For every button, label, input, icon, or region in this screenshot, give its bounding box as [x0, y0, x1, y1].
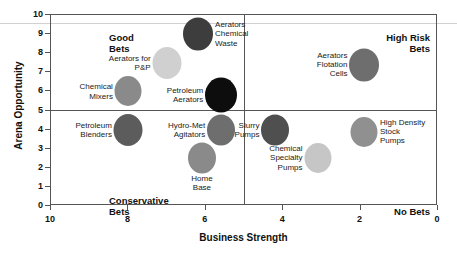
bubble-petroleum-aerators[interactable] [205, 78, 237, 113]
x-axis-tick-label: 2 [357, 215, 362, 224]
bubble-label-slurry-pumps: Slurry Pumps [235, 120, 260, 138]
bubble-label-petroleum-blenders: Petroleum Blenders [75, 120, 111, 138]
x-axis-tick [50, 205, 51, 210]
bubble-high-density-stock-pumps[interactable] [351, 117, 378, 147]
bubble-home-base[interactable] [188, 143, 216, 174]
x-axis-tick [282, 205, 283, 210]
bubble-label-aerators-flotation-cells: Aerators Flotation Cells [317, 51, 348, 79]
y-axis-tick-label: 0 [21, 201, 43, 210]
y-axis-tick-label: 1 [21, 181, 43, 190]
bubble-petroleum-blenders[interactable] [114, 114, 143, 146]
x-axis-tick-label: 8 [125, 215, 130, 224]
bubble-hydro-met-agitators[interactable] [207, 114, 235, 145]
x-axis: 1086420 [50, 205, 437, 229]
y-axis-tick-label: 9 [21, 29, 43, 38]
bubble-chart: 012345678910 Good Bets High Risk Bets Co… [0, 0, 457, 259]
x-axis-tick-label: 10 [45, 215, 55, 224]
y-axis-tick-label: 3 [21, 143, 43, 152]
bubble-label-home-base: Home Base [180, 174, 224, 192]
y-axis-tick-label: 7 [21, 67, 43, 76]
quadrant-label-high-risk-bets: High Risk Bets [386, 32, 430, 54]
bubble-label-chemical-specialty-pumps: Chemical Specialty Pumps [269, 144, 302, 172]
bubble-aerators-chemical-waste[interactable] [183, 18, 213, 51]
plot-area: Good Bets High Risk Bets Conservative Be… [50, 14, 437, 205]
y-axis-tick-label: 8 [21, 48, 43, 57]
x-axis-tick [205, 205, 206, 210]
x-axis-tick-label: 4 [280, 215, 285, 224]
bubble-aerators-for-pp[interactable] [153, 47, 182, 79]
x-axis-tick [127, 205, 128, 210]
bubble-chemical-specialty-pumps[interactable] [305, 143, 332, 173]
bubble-label-aerators-for-pp: Aerators for P&P [109, 54, 151, 72]
bubble-label-aerators-chemical-waste: Aerators Chemical Waste [215, 20, 248, 48]
y-axis-tick-label: 5 [21, 105, 43, 114]
bubble-aerators-flotation-cells[interactable] [349, 48, 379, 81]
x-axis-title: Business Strength [50, 232, 437, 243]
bubble-label-high-density-stock-pumps: High Density Stock Pumps [380, 118, 425, 146]
bubble-label-petroleum-aerators: Petroleum Aerators [167, 86, 203, 104]
x-axis-tick-label: 0 [434, 215, 439, 224]
quadrant-label-good-bets: Good Bets [109, 32, 134, 54]
y-axis-tick-label: 10 [21, 10, 43, 19]
y-axis: 012345678910 [0, 14, 50, 205]
y-axis-title: Arena Opportunity [13, 26, 24, 186]
quadrant-divider-horizontal [51, 110, 436, 111]
x-axis-tick [360, 205, 361, 210]
bubble-label-chemical-mixers: Chemical Mixers [80, 82, 113, 100]
bubble-chemical-mixers[interactable] [115, 76, 142, 106]
x-axis-tick-label: 6 [202, 215, 207, 224]
bubble-label-hydro-met-agitators: Hydro-Met Agitators [168, 120, 205, 138]
y-axis-tick-label: 2 [21, 162, 43, 171]
x-axis-tick [437, 205, 438, 210]
y-axis-tick-label: 4 [21, 124, 43, 133]
y-axis-tick-label: 6 [21, 86, 43, 95]
bubble-slurry-pumps[interactable] [261, 114, 289, 145]
